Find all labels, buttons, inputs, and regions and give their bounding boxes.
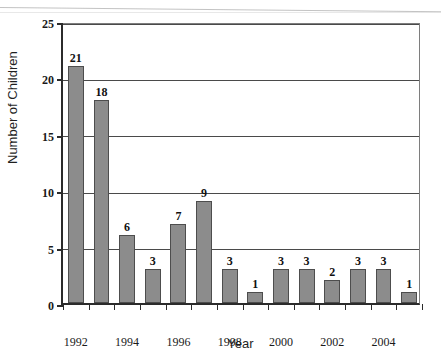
bar-2004[interactable] [376,269,392,303]
bar-value-label-2003: 3 [355,254,361,269]
x-tick-10 [319,304,320,310]
bar-1992[interactable] [68,66,84,303]
gridline-20 [63,80,419,81]
bar-value-label-2000: 3 [278,254,284,269]
bar-1995[interactable] [145,269,161,303]
x-tick-5 [191,304,192,310]
bar-2002[interactable] [324,280,340,303]
y-tick-label-25: 25 [42,17,54,32]
x-tick-11 [345,304,346,310]
x-tick-1 [89,304,90,310]
y-axis-title: Number of Children [5,51,20,164]
x-axis-title: Year [0,336,441,351]
x-tick-8 [268,304,269,310]
bar-value-label-1999: 1 [252,277,258,292]
x-tick-3 [140,304,141,310]
bar-value-label-2001: 3 [304,254,310,269]
bar-1994[interactable] [119,235,135,303]
x-tick-6 [217,304,218,310]
bar-value-label-2004: 3 [381,254,387,269]
x-tick-7 [243,304,244,310]
bar-value-label-2005: 1 [406,277,412,292]
gridline-15 [63,136,419,137]
x-tick-12 [371,304,372,310]
bar-2000[interactable] [273,269,289,303]
bar-1993[interactable] [94,100,110,303]
y-tick-label-5: 5 [48,242,54,257]
x-tick-9 [294,304,295,310]
bar-2003[interactable] [350,269,366,303]
y-tick-label-0: 0 [48,299,54,314]
bar-1996[interactable] [170,224,186,303]
y-tick-15 [57,136,63,138]
chart-page: Number of Children 051015202521186379313… [0,0,441,364]
x-tick-2 [114,304,115,310]
gridline-5 [63,249,419,250]
gridline-25 [63,24,419,25]
bar-value-label-1996: 7 [175,209,181,224]
bar-value-label-1994: 6 [124,220,130,235]
y-tick-25 [57,23,63,25]
plot-area: 0510152025211863793133233119921994199619… [61,23,420,305]
bar-value-label-1992: 21 [70,51,82,66]
bar-value-label-1997: 9 [201,186,207,201]
bar-1999[interactable] [247,292,263,303]
gridline-10 [63,193,419,194]
bar-2001[interactable] [299,269,315,303]
y-tick-label-20: 20 [42,73,54,88]
scan-artifact-line-secondary [0,12,441,13]
bar-2005[interactable] [401,292,417,303]
bar-value-label-1995: 3 [150,254,156,269]
x-tick-0 [63,304,64,310]
bar-value-label-1998: 3 [227,254,233,269]
bar-value-label-2002: 2 [329,265,335,280]
bar-1997[interactable] [196,201,212,303]
y-tick-label-10: 10 [42,186,54,201]
x-tick-14 [422,304,423,310]
y-tick-10 [57,192,63,194]
y-tick-20 [57,79,63,81]
bar-value-label-1993: 18 [95,85,107,100]
bar-1998[interactable] [222,269,238,303]
y-tick-label-15: 15 [42,129,54,144]
x-tick-13 [396,304,397,310]
x-tick-4 [166,304,167,310]
y-tick-5 [57,249,63,251]
